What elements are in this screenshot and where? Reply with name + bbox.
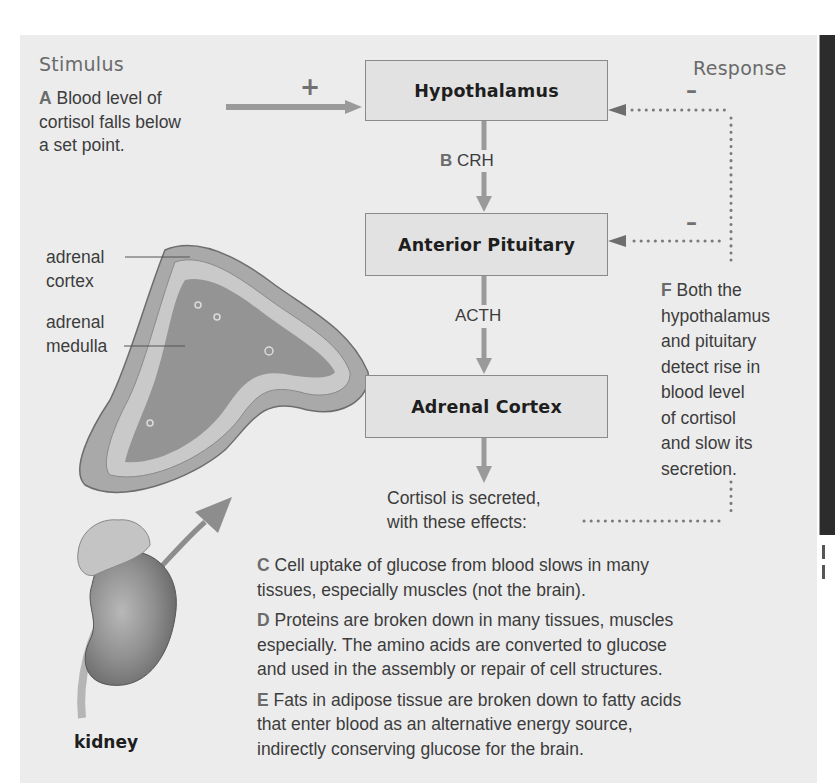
negative-sign-bottom: – [686,210,697,235]
stimulus-heading: Stimulus [39,53,124,75]
stimulus-arrow [226,100,362,114]
kidney-illustration [78,520,177,718]
edge-label-acth: ACTH [455,306,501,326]
response-heading: Response [693,57,787,79]
step-letter-a: A [39,88,52,108]
edge-label-crh: B CRH [440,151,494,171]
node-anterior-pituitary: Anterior Pituitary [365,213,608,276]
cortisol-output-text: Cortisol is secreted, with these effects… [387,487,541,534]
step-letter-f: F [661,280,672,300]
adrenal-gland-illustration [80,246,369,493]
label-adrenal-medulla: adrenal medulla [46,310,107,358]
effect-c: C Cell uptake of glucose from blood slow… [257,553,681,602]
label-kidney: kidney [74,732,138,752]
effects-list: C Cell uptake of glucose from blood slow… [257,553,681,767]
effect-d: D Proteins are broken down in many tissu… [257,608,681,682]
effect-e: E Fats in adipose tissue are broken down… [257,688,681,762]
node-adrenal-cortex: Adrenal Cortex [365,375,608,438]
node-hypothalamus: Hypothalamus [365,60,608,121]
feedback-description: F Both the hypothalamus and pituitary de… [661,278,770,482]
stimulus-description: A Blood level of cortisol falls below a … [39,87,181,158]
zoom-arrow [160,497,232,568]
label-adrenal-cortex: adrenal cortex [46,245,104,293]
negative-sign-top: – [686,78,697,103]
positive-sign: + [300,73,320,101]
